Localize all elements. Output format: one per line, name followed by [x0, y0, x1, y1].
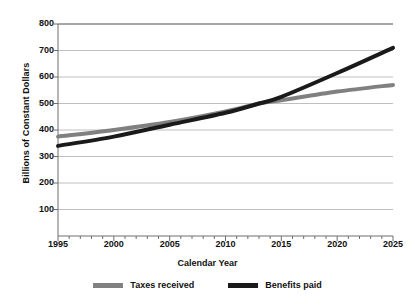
x-axis-tick-label: 2020 [317, 240, 357, 249]
y-axis-tick-label: 600 [28, 72, 54, 81]
legend-label-benefits-paid: Benefits paid [265, 281, 322, 290]
y-axis-tick-label: 700 [28, 46, 54, 55]
legend-item-taxes-received: Taxes received [93, 281, 194, 290]
chart-container: Billions of Constant Dollars 80070060050… [0, 0, 415, 308]
x-axis-tick-label: 2005 [150, 240, 190, 249]
legend-label-taxes-received: Taxes received [130, 281, 194, 290]
legend-swatch-taxes-received [93, 283, 123, 288]
y-axis-tick-label: 500 [28, 99, 54, 108]
legend-swatch-benefits-paid [228, 283, 258, 288]
x-axis-tick-label: 1995 [38, 240, 78, 249]
y-axis-tick-label: 300 [28, 152, 54, 161]
y-axis-tick-label: 100 [28, 205, 54, 214]
y-axis-tick-label: 800 [28, 19, 54, 28]
x-axis-title: Calendar Year [0, 258, 415, 268]
y-axis-tick-label: 400 [28, 125, 54, 134]
x-axis-tick-label: 2000 [94, 240, 134, 249]
x-axis-tick-label: 2010 [206, 240, 246, 249]
y-axis-tick-label: 200 [28, 178, 54, 187]
chart-legend: Taxes received Benefits paid [0, 281, 415, 290]
x-axis-tick-labels: 1995200020052010201520202025 [0, 240, 415, 254]
x-axis-tick-label: 2025 [373, 240, 413, 249]
x-axis-tick-label: 2015 [261, 240, 301, 249]
legend-item-benefits-paid: Benefits paid [228, 281, 322, 290]
